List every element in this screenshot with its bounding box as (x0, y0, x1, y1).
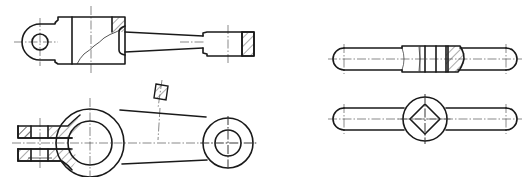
wrench-top-view (328, 94, 522, 144)
arm-removed-section (154, 80, 168, 108)
technical-drawing (0, 0, 531, 177)
lever-top-view (12, 98, 258, 177)
lever-front-view (14, 6, 254, 75)
wrench-front-view (328, 44, 522, 74)
drawing-canvas: Mechanical part drawings (0, 0, 531, 177)
